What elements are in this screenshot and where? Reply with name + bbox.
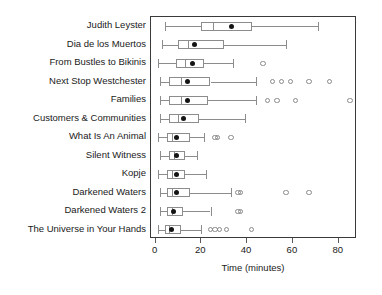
outlier-point [347, 98, 352, 103]
whisker-high-cap [245, 114, 246, 123]
box-plot-row [151, 184, 355, 203]
whisker-high-cap [256, 77, 257, 86]
whisker-high-line [252, 26, 318, 27]
whisker-high-line [211, 82, 257, 83]
whisker-low-cap [158, 225, 159, 234]
whisker-high-cap [256, 96, 257, 105]
whisker-low-cap [158, 170, 159, 179]
mean-marker [174, 190, 179, 195]
box-plot-row [151, 202, 355, 221]
outlier-point [306, 79, 311, 84]
x-axis-tick-label: 40 [241, 244, 252, 255]
outlier-point [260, 61, 265, 66]
whisker-high-line [204, 63, 234, 64]
box-plot-row [151, 17, 355, 36]
whisker-low-cap [165, 22, 166, 31]
mean-marker [181, 116, 186, 121]
y-axis-label: Judith Leyster [0, 20, 150, 30]
whisker-low-line [158, 230, 165, 231]
whisker-high-cap [204, 133, 205, 142]
box-iqr [178, 40, 224, 49]
y-axis-label: Darkened Waters 2 [0, 205, 150, 215]
x-axis-tick-label: 80 [332, 244, 343, 255]
median-line [172, 133, 173, 142]
outlier-point [238, 190, 243, 195]
y-axis-label: Customers & Communities [0, 113, 150, 123]
y-axis-label: Kopje [0, 168, 150, 178]
outlier-point [288, 79, 293, 84]
whisker-high-cap [286, 40, 287, 49]
x-axis-tick [200, 238, 201, 243]
whisker-low-cap [162, 40, 163, 49]
mean-marker [174, 153, 179, 158]
whisker-high-line [224, 45, 286, 46]
box-plot-row [151, 110, 355, 129]
outlier-point [228, 135, 233, 140]
y-axis-label: Families [0, 94, 150, 104]
outlier-point [224, 227, 229, 232]
x-axis-tick [338, 238, 339, 243]
x-axis-tick [292, 238, 293, 243]
outlier-point [217, 227, 222, 232]
mean-marker [174, 135, 179, 140]
mean-marker [190, 61, 195, 66]
box-plot-row [151, 147, 355, 166]
whisker-high-line [208, 100, 256, 101]
box-plot-row [151, 73, 355, 92]
whisker-low-line [160, 156, 169, 157]
whisker-high-line [190, 193, 231, 194]
outlier-point [274, 98, 279, 103]
whisker-low-line [158, 137, 167, 138]
box-plot-row [151, 36, 355, 55]
whisker-low-cap [160, 77, 161, 86]
box-plot-row [151, 221, 355, 240]
y-axis-category-labels: Judith LeysterDia de los MuertosFrom Bus… [0, 16, 146, 238]
median-line [181, 77, 182, 86]
whisker-low-line [160, 193, 167, 194]
whisker-low-line [158, 174, 167, 175]
outlier-point [306, 190, 311, 195]
median-line [178, 114, 179, 123]
whisker-high-line [181, 230, 202, 231]
whisker-high-cap [197, 151, 198, 160]
outlier-point [215, 135, 220, 140]
y-axis-label: Dia de los Muertos [0, 39, 150, 49]
whisker-high-line [190, 137, 204, 138]
whisker-high-cap [201, 225, 202, 234]
whisker-low-cap [158, 133, 159, 142]
x-axis-tick-label: 60 [287, 244, 298, 255]
whisker-low-line [160, 100, 169, 101]
y-axis-label: Darkened Waters [0, 187, 150, 197]
whisker-high-cap [318, 22, 319, 31]
whisker-high-line [199, 119, 245, 120]
mean-marker [174, 172, 179, 177]
x-axis-tick [246, 238, 247, 243]
whisker-low-cap [160, 151, 161, 160]
whisker-high-cap [211, 207, 212, 216]
y-axis-label: Silent Witness [0, 150, 150, 160]
y-axis-label: From Bustles to Bikinis [0, 57, 150, 67]
whisker-low-cap [160, 207, 161, 216]
mean-marker [185, 98, 190, 103]
median-line [185, 59, 186, 68]
box-plot-chart: Judith LeysterDia de los MuertosFrom Bus… [0, 0, 382, 295]
plot-area [150, 16, 356, 238]
whisker-low-line [160, 119, 169, 120]
box-plot-row [151, 165, 355, 184]
whisker-low-cap [160, 96, 161, 105]
x-axis-title: Time (minutes) [150, 262, 356, 273]
outlier-point [293, 98, 298, 103]
median-line [188, 40, 189, 49]
mean-marker [229, 24, 234, 29]
outlier-point [238, 209, 243, 214]
outlier-point [270, 79, 275, 84]
outlier-point [283, 190, 288, 195]
box-plot-row [151, 54, 355, 73]
whisker-low-cap [160, 188, 161, 197]
x-axis-tick-label: 20 [195, 244, 206, 255]
outlier-point [265, 98, 270, 103]
box-plot-row [151, 91, 355, 110]
whisker-high-cap [231, 188, 232, 197]
outlier-point [279, 79, 284, 84]
y-axis-label: The Universe in Your Hands [0, 224, 150, 234]
